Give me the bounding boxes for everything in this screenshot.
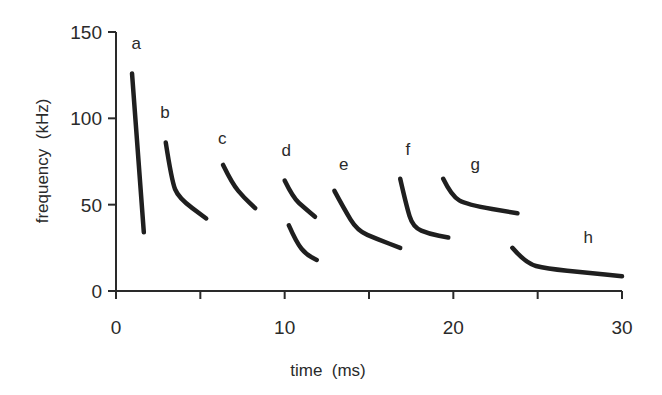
- call-d: d: [282, 141, 315, 216]
- call-label: c: [218, 129, 227, 148]
- call-a: a: [132, 34, 144, 232]
- call-label: h: [584, 228, 593, 247]
- y-tick-label: 150: [70, 22, 102, 43]
- call-label: d: [282, 141, 291, 160]
- x-tick-label: 30: [611, 317, 632, 338]
- call-f: f: [400, 140, 448, 238]
- call-trace: [289, 225, 317, 260]
- call-label: e: [339, 155, 348, 174]
- x-tick-label: 0: [111, 317, 122, 338]
- call-b: b: [160, 103, 206, 218]
- call-label: b: [160, 103, 169, 122]
- y-tick-label: 0: [91, 281, 102, 302]
- x-tick-label: 10: [274, 317, 295, 338]
- call-h: h: [512, 228, 622, 277]
- call-e: e: [334, 155, 400, 248]
- call-trace: [512, 248, 622, 276]
- call-trace: [132, 73, 144, 232]
- call-label: g: [471, 155, 480, 174]
- axes: [109, 32, 622, 291]
- chart: 050100150 0102030 frequency (kHz) time (…: [0, 0, 662, 395]
- call-g: g: [443, 155, 517, 213]
- call-trace: [223, 165, 255, 208]
- call-trace: [285, 180, 315, 216]
- call-trace: [400, 179, 448, 238]
- call-d2: [289, 225, 317, 260]
- call-series: abcdefgh: [132, 34, 622, 276]
- call-trace: [334, 191, 400, 248]
- call-label: a: [132, 34, 142, 53]
- y-ticks: 050100150: [70, 22, 116, 302]
- x-ticks: 0102030: [111, 291, 633, 338]
- call-label: f: [405, 140, 410, 159]
- call-trace: [443, 179, 517, 214]
- call-trace: [166, 143, 206, 219]
- call-c: c: [218, 129, 255, 208]
- y-tick-label: 100: [70, 108, 102, 129]
- x-tick-label: 20: [443, 317, 464, 338]
- y-axis-label: frequency (kHz): [33, 99, 52, 224]
- y-tick-label: 50: [81, 195, 102, 216]
- x-axis-label: time (ms): [290, 361, 366, 380]
